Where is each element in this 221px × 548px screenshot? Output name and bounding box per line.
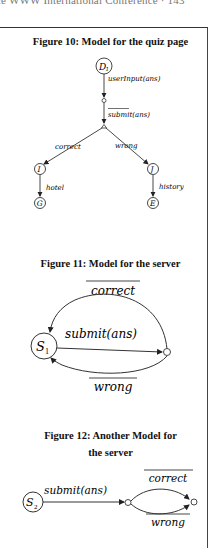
node-d1-sub: 1 — [106, 66, 110, 72]
edge-hotel: hotel — [46, 184, 64, 192]
edge-submit: submit(ans) — [108, 111, 150, 119]
edge-correct-bar: correct — [91, 284, 135, 298]
figure-10-diagram: D 1 userInput(ans) submit(ans) correct w… — [35, 58, 185, 209]
edge-wrong: wrong — [115, 142, 138, 150]
edge-submit: submit(ans) — [44, 484, 107, 496]
svg-text:2: 2 — [34, 503, 38, 511]
svg-text:G: G — [37, 199, 43, 208]
figure-12-caption-line1: Figure 12: Another Model for — [0, 430, 221, 441]
edge-history: history — [159, 183, 185, 191]
svg-text:S: S — [26, 496, 34, 509]
edge-correct: correct — [55, 143, 81, 151]
edge-user-input: userInput(ans) — [108, 75, 161, 83]
svg-text:E: E — [149, 199, 156, 208]
edge-wrong-bar: wrong — [151, 516, 185, 528]
figure-12-diagram: S 2 submit(ans) correct wrong — [23, 470, 197, 528]
edge-correct-bar: correct — [149, 472, 188, 484]
svg-text:S: S — [36, 339, 45, 354]
svg-text:1: 1 — [45, 347, 49, 356]
figure-11-caption: Figure 11: Model for the server — [0, 258, 221, 269]
svg-text:I: I — [37, 165, 42, 174]
edge-wrong-bar: wrong — [94, 380, 133, 394]
figure-12-caption-line2: the server — [0, 447, 221, 458]
edge-submit: submit(ans) — [65, 327, 137, 341]
figure-11-diagram: correct S 1 submit(ans) wrong — [31, 281, 171, 394]
